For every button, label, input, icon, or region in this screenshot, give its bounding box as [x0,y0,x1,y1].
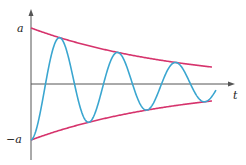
y-label-neg-a: −a [6,133,22,146]
lower-envelope-curve [31,101,212,140]
t-axis-arrow-icon [228,82,235,87]
y-axis-arrow-icon [29,9,34,16]
damped-oscillation-chart: a −a t [0,0,246,165]
x-axis-label-t: t [233,89,238,102]
y-label-a: a [17,22,24,35]
upper-envelope-curve [31,28,212,67]
